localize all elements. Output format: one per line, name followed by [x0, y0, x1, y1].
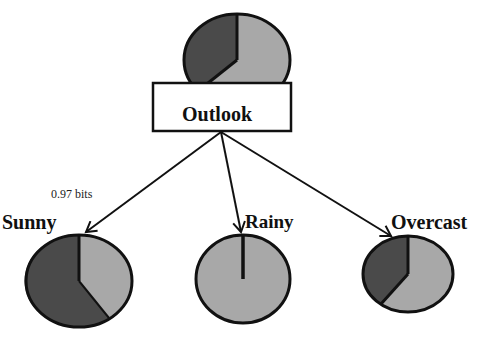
- sunny-pie-chart: [25, 235, 132, 327]
- outlook-label: Outlook: [182, 103, 252, 126]
- arrow-to-rainy: [221, 132, 241, 232]
- sunny-label: Sunny: [2, 211, 57, 234]
- arrow-to-sunny: [86, 132, 221, 232]
- sunny-entropy-annotation: 0.97 bits: [51, 187, 92, 202]
- overcast-pie-chart: [363, 236, 453, 312]
- decision-tree-diagram: [0, 0, 490, 341]
- rainy-pie-chart: [196, 235, 290, 323]
- overcast-label: Overcast: [391, 211, 467, 234]
- rainy-label: Rainy: [245, 211, 294, 233]
